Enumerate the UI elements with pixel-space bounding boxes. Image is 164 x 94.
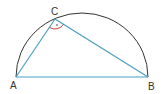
label-b: B [148, 81, 155, 92]
semicircle-arc [16, 13, 148, 77]
side-cb [55, 19, 148, 77]
angle-c-dot [56, 24, 58, 26]
semicircle-triangle-diagram: A B C [0, 0, 164, 94]
label-c: C [51, 6, 58, 17]
label-a: A [10, 80, 17, 91]
